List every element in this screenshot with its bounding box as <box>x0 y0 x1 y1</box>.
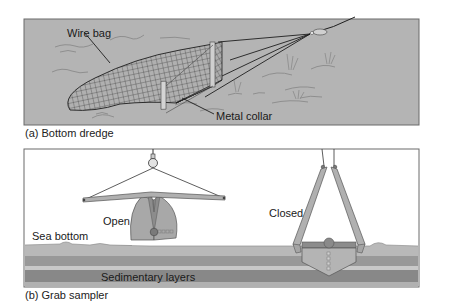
label-closed: Closed <box>269 207 303 219</box>
label-metal-collar: Metal collar <box>216 110 273 122</box>
figure-canvas: Wire bag Metal collar <box>0 0 460 304</box>
caption-panel-a: (a) Bottom dredge <box>25 127 114 139</box>
hoist-ring-icon <box>149 159 158 168</box>
label-sea-bottom: Sea bottom <box>32 230 88 242</box>
label-sedimentary-layers: Sedimentary layers <box>101 271 196 283</box>
label-wire-bag: Wire bag <box>67 27 111 39</box>
label-open: Open <box>103 215 130 227</box>
panel-a-bottom-dredge: Wire bag Metal collar <box>24 17 419 125</box>
panel-b-grab-sampler: Open Closed Sea bottom Sedimentary layer… <box>24 149 419 287</box>
caption-panel-b: (b) Grab sampler <box>25 289 108 301</box>
